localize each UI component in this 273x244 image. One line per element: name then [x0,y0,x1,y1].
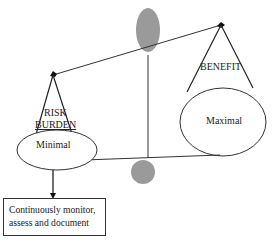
right-heading-benefit: BENEFIT [200,61,241,72]
right-string-left [187,25,221,92]
right-pan-value: Maximal [206,115,242,126]
left-pan [17,130,97,170]
action-line-2: assess and document [9,216,100,229]
action-line-1: Continuously monitor, [9,203,100,216]
left-heading-risk: RISK [44,107,67,118]
right-string-right [221,25,253,88]
action-box: Continuously monitor, assess and documen… [3,198,106,236]
left-heading-burden: BURDEN [35,119,76,130]
top-counterweight [136,8,160,52]
bottom-counterweight [131,160,155,184]
left-pan-value: Minimal [36,139,70,150]
